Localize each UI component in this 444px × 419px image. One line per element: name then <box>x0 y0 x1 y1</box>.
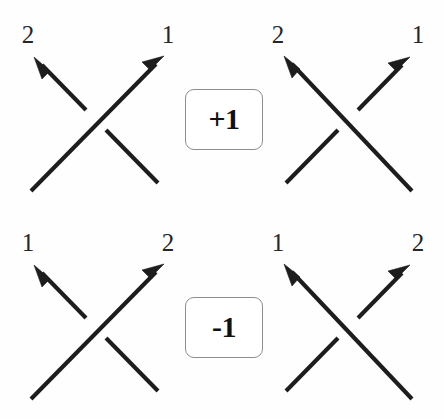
under-strand-sw-ne-upper <box>358 65 402 110</box>
label-negative-left-top-left: 1 <box>16 230 40 255</box>
under-strand-se-nw-lower <box>106 338 158 391</box>
label-negative-right-top-right: 2 <box>406 230 430 255</box>
sign-badge-positive-label: +1 <box>208 104 239 136</box>
diagram-positive-left <box>31 56 164 191</box>
over-strand-sw-ne <box>31 64 156 191</box>
diagram-negative-left <box>31 264 164 399</box>
diagram-positive-right <box>284 56 412 191</box>
crossing-sign-figure: 2 1 2 1 1 2 1 2 +1 -1 <box>0 0 444 419</box>
sign-badge-negative-label: -1 <box>212 312 236 344</box>
label-positive-left-top-right: 1 <box>156 22 180 47</box>
under-strand-sw-ne-upper <box>358 273 402 318</box>
over-strand-sw-ne <box>31 272 156 399</box>
label-positive-right-top-left: 2 <box>266 22 290 47</box>
under-strand-sw-ne-lower <box>286 338 338 391</box>
label-negative-right-top-left: 1 <box>266 230 290 255</box>
under-strand-se-nw-lower <box>106 130 158 183</box>
arrowhead-nw <box>284 264 300 286</box>
over-strand-se-nw <box>292 64 412 191</box>
over-strand-se-nw <box>292 272 412 399</box>
sign-badge-positive: +1 <box>185 89 263 150</box>
sign-badge-negative: -1 <box>185 297 263 358</box>
label-negative-left-top-right: 2 <box>156 230 180 255</box>
label-positive-right-top-right: 1 <box>406 22 430 47</box>
arrowhead-nw <box>284 56 300 78</box>
under-strand-sw-ne-lower <box>286 130 338 183</box>
diagram-negative-right <box>284 264 412 399</box>
label-positive-left-top-left: 2 <box>16 22 40 47</box>
